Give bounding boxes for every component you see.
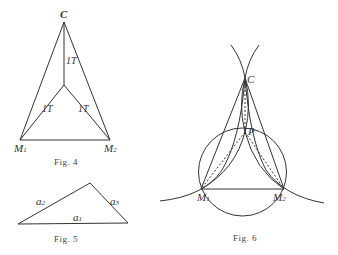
fig4-caption: Fig. 4 bbox=[54, 158, 78, 167]
fig4-label-m2: M2 bbox=[104, 143, 117, 154]
fig6-label-c: C bbox=[247, 74, 254, 85]
fig4-label-c: C bbox=[60, 9, 67, 20]
figure-drawings bbox=[0, 0, 338, 255]
fig4-label-m1-main: M bbox=[14, 142, 23, 154]
fig5-label-a2: a2 bbox=[36, 196, 45, 207]
fig6-label-m2: M2 bbox=[273, 192, 286, 203]
fig5-caption: Fig. 5 bbox=[54, 235, 78, 244]
fig5-label-a1: a1 bbox=[73, 212, 82, 223]
fig5-label-a2-sub: 2 bbox=[42, 199, 46, 207]
fig5-label-a3: a3 bbox=[110, 196, 119, 207]
fig6-caption: Fig. 6 bbox=[233, 234, 257, 243]
fig4-label-m1-sub: 1 bbox=[23, 146, 27, 154]
fig4-drawing bbox=[20, 22, 110, 140]
fig6-label-m1-main: M bbox=[197, 191, 206, 203]
fig6-label-p: P bbox=[248, 126, 255, 137]
fig4-label-m1: M1 bbox=[14, 143, 27, 154]
fig4-label-left-segment: 1T bbox=[42, 104, 53, 114]
fig5-label-a3-sub: 3 bbox=[116, 199, 120, 207]
fig5-label-a1-sub: 1 bbox=[79, 215, 83, 223]
fig4-label-m2-main: M bbox=[104, 142, 113, 154]
fig6-label-m1-sub: 1 bbox=[206, 195, 210, 203]
fig4-label-m2-sub: 2 bbox=[113, 146, 117, 154]
fig4-label-upper-segment: 1T bbox=[66, 56, 77, 66]
fig4-triangle bbox=[20, 22, 110, 140]
fig6-label-m1: M1 bbox=[197, 192, 210, 203]
fig4-label-right-segment: 1T bbox=[78, 104, 89, 114]
fig6-label-m2-sub: 2 bbox=[282, 195, 286, 203]
fig6-drawing bbox=[160, 45, 324, 216]
fig6-label-m2-main: M bbox=[273, 191, 282, 203]
